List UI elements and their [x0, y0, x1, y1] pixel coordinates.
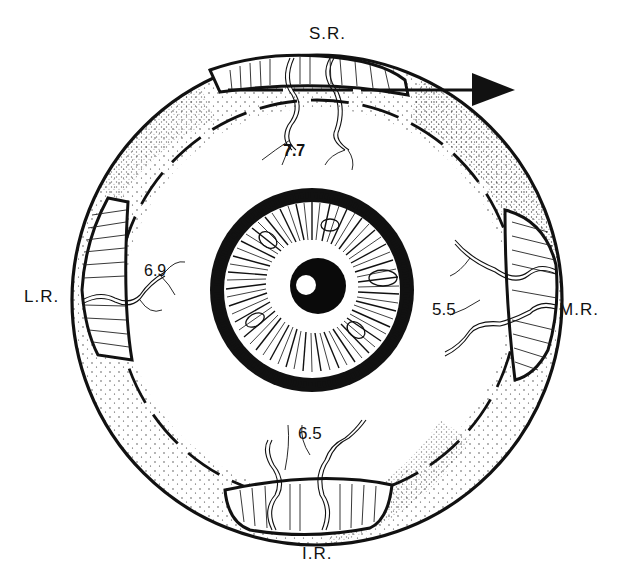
- distance-inferior-rectus: 6.5: [298, 424, 322, 444]
- eye-muscle-diagram: S.R. L.R. M.R. I.R. 7.7 6.9 5.5 6.5: [0, 0, 630, 579]
- distance-lateral-rectus: 6.9: [144, 262, 166, 280]
- distance-medial-rectus: 5.5: [432, 300, 456, 320]
- eye-illustration: [0, 0, 630, 579]
- label-medial-rectus: M.R.: [559, 300, 599, 320]
- label-inferior-rectus: I.R.: [302, 544, 332, 564]
- distance-superior-rectus: 7.7: [283, 142, 305, 160]
- pupil-highlight: [296, 275, 316, 295]
- label-superior-rectus: S.R.: [309, 24, 346, 44]
- label-lateral-rectus: L.R.: [24, 287, 59, 307]
